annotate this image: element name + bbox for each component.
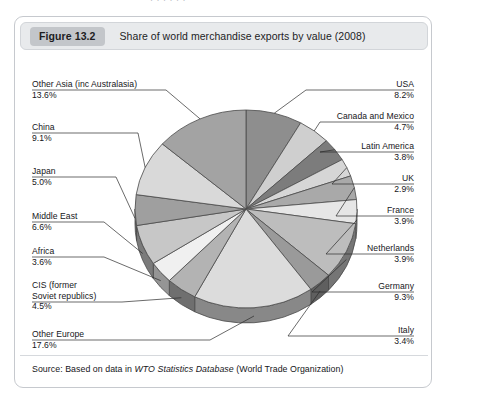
pie-label-name: Japan [32,166,56,177]
page-top-cut-text: · · · · · · [0,0,500,9]
figure-title: Share of world merchandise exports by va… [120,30,366,42]
pie-label-name: USA [394,79,414,90]
pie-callout-label: Netherlands3.9% [367,243,414,264]
pie-label-percent: 6.6% [32,222,77,233]
pie-label-percent: 3.4% [394,336,414,347]
source-suffix: (World Trade Organization) [234,364,344,374]
pie-label-name: Middle East [32,211,77,222]
pie-label-name: France [387,205,414,216]
pie-chart-area: Other Asia (inc Australasia)13.6%China9.… [20,53,428,353]
pie-label-percent: 5.0% [32,177,56,188]
pie-label-percent: 8.2% [394,90,414,101]
pie-label-name: Netherlands [367,243,414,254]
pie-callout-label: Canada and Mexico4.7% [337,111,414,132]
pie-label-percent: 3.9% [367,254,414,265]
pie-callout-label: Africa3.6% [32,246,54,267]
pie-callout-label: France3.9% [387,205,414,226]
pie-callout-label: Other Asia (inc Australasia)13.6% [32,79,137,100]
pie-label-name: CIS (formerSoviet republics) [32,280,96,301]
pie-label-name: Africa [32,246,54,257]
pie-callout-label: Other Europe17.6% [32,329,84,350]
pie-label-name: Italy [394,325,414,336]
pie-callout-label: Italy3.4% [394,325,414,346]
pie-label-name: Other Europe [32,329,84,340]
pie-label-name: Latin America [361,141,414,152]
pie-callout-label: Latin America3.8% [361,141,414,162]
pie-label-name: Canada and Mexico [337,111,414,122]
pie-top-faces [135,110,357,308]
pie-label-percent: 9.1% [32,133,55,144]
pie-label-percent: 13.6% [32,90,137,101]
figure-number-badge: Figure 13.2 [30,27,105,46]
pie-label-percent: 3.6% [32,257,54,268]
pie-label-name: UK [394,173,414,184]
pie-label-percent: 4.7% [337,122,414,133]
pie-callout-label: CIS (formerSoviet republics)4.5% [32,280,96,312]
pie-label-name: China [32,122,55,133]
pie-label-name: Germany [378,281,414,292]
source-prefix: Source: Based on data in [32,364,134,374]
pie-label-percent: 4.5% [32,301,96,312]
pie-callout-label: USA8.2% [394,79,414,100]
pie-callout-label: Middle East6.6% [32,211,77,232]
source-italic-title: WTO Statistics Database [134,364,233,374]
pie-label-percent: 2.9% [394,184,414,195]
figure-footer: Source: Based on data in WTO Statistics … [20,355,428,382]
pie-label-percent: 17.6% [32,340,84,351]
pie-callout-label: UK2.9% [394,173,414,194]
source-note: Source: Based on data in WTO Statistics … [32,364,343,374]
pie-label-percent: 3.9% [387,216,414,227]
pie-label-percent: 3.8% [361,152,414,163]
pie-callout-label: Japan5.0% [32,166,56,187]
pie-label-percent: 9.3% [378,292,414,303]
pie-leader-line [274,90,414,113]
pie-label-name: Other Asia (inc Australasia) [32,79,137,90]
pie-callout-label: Germany9.3% [378,281,414,302]
pie-callout-label: China9.1% [32,122,55,143]
figure-box: Figure 13.2 Share of world merchandise e… [14,16,432,388]
figure-header: Figure 13.2 Share of world merchandise e… [20,22,428,50]
